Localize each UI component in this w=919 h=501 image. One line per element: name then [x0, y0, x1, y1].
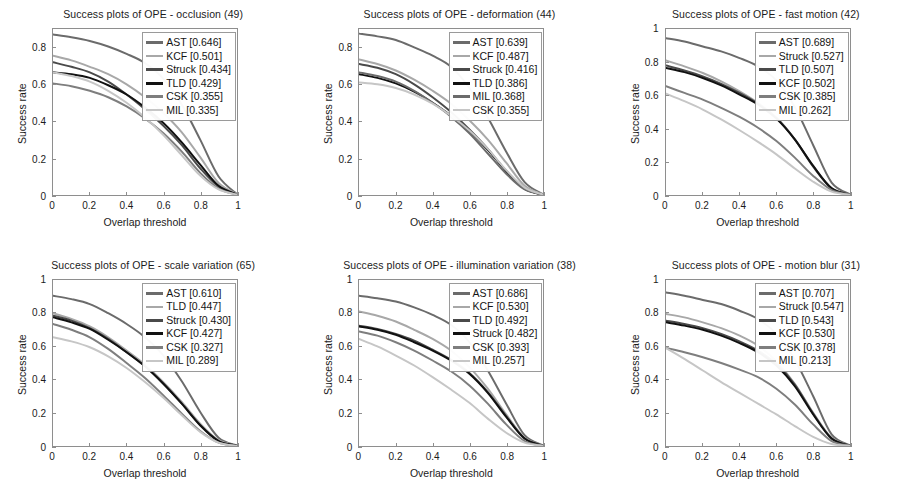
- legend-item[interactable]: CSK [0.327]: [146, 341, 231, 355]
- legend-item[interactable]: TLD [0.507]: [759, 63, 844, 77]
- legend-item[interactable]: MIL [0.335]: [146, 104, 231, 118]
- legend-item[interactable]: TLD [0.492]: [453, 314, 538, 328]
- legend-label: MIL [0.213]: [779, 354, 831, 368]
- x-axis-label: Overlap threshold: [665, 467, 851, 479]
- legend-item[interactable]: AST [0.686]: [453, 287, 538, 301]
- y-tick-mark: [358, 312, 362, 313]
- y-tick-label: 0: [312, 441, 352, 452]
- x-tick-label: 0.8: [194, 451, 208, 462]
- legend: AST [0.646]KCF [0.501]Struck [0.434]TLD …: [142, 32, 236, 121]
- y-tick-mark: [665, 447, 669, 448]
- legend-item[interactable]: CSK [0.385]: [759, 90, 844, 104]
- x-tick-label: 0.2: [389, 200, 403, 211]
- x-tick-label: 0.8: [807, 200, 821, 211]
- legend-item[interactable]: CSK [0.393]: [453, 341, 538, 355]
- legend-line-icon: [146, 68, 163, 71]
- y-tick-label: 0.2: [6, 153, 46, 164]
- legend-label: MIL [0.289]: [166, 354, 218, 368]
- legend-item[interactable]: CSK [0.355]: [453, 104, 538, 118]
- y-tick-label: 0.8: [312, 41, 352, 52]
- legend-item[interactable]: MIL [0.289]: [146, 354, 231, 368]
- plot-area: 00.20.40.60.800.20.40.60.81Success rateO…: [52, 28, 238, 196]
- legend-item[interactable]: MIL [0.257]: [453, 354, 538, 368]
- y-tick-label: 0.2: [6, 407, 46, 418]
- x-tick-mark: [164, 443, 165, 447]
- legend-item[interactable]: Struck [0.416]: [453, 63, 538, 77]
- legend-item[interactable]: AST [0.707]: [759, 287, 844, 301]
- legend-item[interactable]: Struck [0.482]: [453, 327, 538, 341]
- x-axis-label: Overlap threshold: [52, 467, 238, 479]
- legend-item[interactable]: KCF [0.530]: [759, 327, 844, 341]
- y-tick-mark: [665, 346, 669, 347]
- legend-item[interactable]: Struck [0.527]: [759, 50, 844, 64]
- x-tick-label: 0: [662, 451, 668, 462]
- x-tick-mark: [739, 192, 740, 196]
- x-tick-mark: [544, 192, 545, 196]
- legend-item[interactable]: KCF [0.502]: [759, 77, 844, 91]
- chart-panel: Success plots of OPE - deformation (44)0…: [306, 0, 612, 251]
- y-tick-mark: [52, 84, 56, 85]
- legend-item[interactable]: AST [0.639]: [453, 36, 538, 50]
- legend-label: MIL [0.335]: [166, 104, 218, 118]
- x-tick-mark: [665, 443, 666, 447]
- legend-line-icon: [759, 360, 776, 362]
- x-axis-label: Overlap threshold: [358, 216, 544, 228]
- legend-item[interactable]: Struck [0.434]: [146, 63, 231, 77]
- y-tick-label: 0.2: [312, 153, 352, 164]
- legend-item[interactable]: AST [0.646]: [146, 36, 231, 50]
- x-axis-label: Overlap threshold: [665, 216, 851, 228]
- legend-label: CSK [0.393]: [473, 341, 530, 355]
- legend-item[interactable]: AST [0.610]: [146, 287, 231, 301]
- y-tick-mark: [52, 447, 56, 448]
- legend-label: AST [0.686]: [473, 287, 528, 301]
- chart-panel: Success plots of OPE - fast motion (42)0…: [613, 0, 919, 251]
- y-tick-label: 0.2: [619, 157, 659, 168]
- legend-label: Struck [0.527]: [779, 50, 844, 64]
- legend-item[interactable]: TLD [0.447]: [146, 300, 231, 314]
- panel-title: Success plots of OPE - occlusion (49): [0, 8, 306, 20]
- legend-item[interactable]: MIL [0.213]: [759, 354, 844, 368]
- legend-line-icon: [453, 306, 470, 308]
- y-tick-mark: [665, 312, 669, 313]
- legend-item[interactable]: CSK [0.355]: [146, 90, 231, 104]
- legend-item[interactable]: Struck [0.547]: [759, 300, 844, 314]
- legend-line-icon: [453, 292, 470, 295]
- legend-item[interactable]: CSK [0.378]: [759, 341, 844, 355]
- x-tick-label: 0: [49, 200, 55, 211]
- legend-item[interactable]: TLD [0.386]: [453, 77, 538, 91]
- legend-line-icon: [146, 55, 163, 57]
- legend-item[interactable]: TLD [0.429]: [146, 77, 231, 91]
- legend-item[interactable]: Struck [0.430]: [146, 314, 231, 328]
- y-tick-mark: [358, 121, 362, 122]
- chart-panel: Success plots of OPE - scale variation (…: [0, 251, 306, 501]
- legend-label: TLD [0.543]: [779, 314, 834, 328]
- y-axis-label: Success rate: [629, 334, 641, 395]
- legend-label: KCF [0.501]: [166, 50, 222, 64]
- x-tick-label: 0.4: [426, 200, 440, 211]
- legend-line-icon: [453, 95, 470, 98]
- legend-item[interactable]: KCF [0.427]: [146, 327, 231, 341]
- y-tick-mark: [665, 279, 669, 280]
- legend-line-icon: [453, 109, 470, 111]
- legend-item[interactable]: KCF [0.487]: [453, 50, 538, 64]
- legend-item[interactable]: MIL [0.368]: [453, 90, 538, 104]
- legend-label: KCF [0.427]: [166, 327, 222, 341]
- legend-line-icon: [146, 41, 163, 44]
- legend-item[interactable]: AST [0.689]: [759, 36, 844, 50]
- y-tick-mark: [52, 312, 56, 313]
- y-tick-mark: [52, 346, 56, 347]
- y-tick-mark: [358, 47, 362, 48]
- x-tick-mark: [507, 192, 508, 196]
- x-tick-mark: [52, 443, 53, 447]
- legend-line-icon: [146, 306, 163, 308]
- legend-item[interactable]: KCF [0.530]: [453, 300, 538, 314]
- y-tick-mark: [665, 379, 669, 380]
- x-tick-label: 0.6: [769, 200, 783, 211]
- success-plots-figure: Success plots of OPE - occlusion (49)00.…: [0, 0, 919, 501]
- x-tick-label: 0.6: [769, 451, 783, 462]
- y-tick-label: 0.2: [619, 407, 659, 418]
- legend-label: TLD [0.386]: [473, 77, 528, 91]
- legend-item[interactable]: MIL [0.262]: [759, 104, 844, 118]
- legend-item[interactable]: KCF [0.501]: [146, 50, 231, 64]
- legend-item[interactable]: TLD [0.543]: [759, 314, 844, 328]
